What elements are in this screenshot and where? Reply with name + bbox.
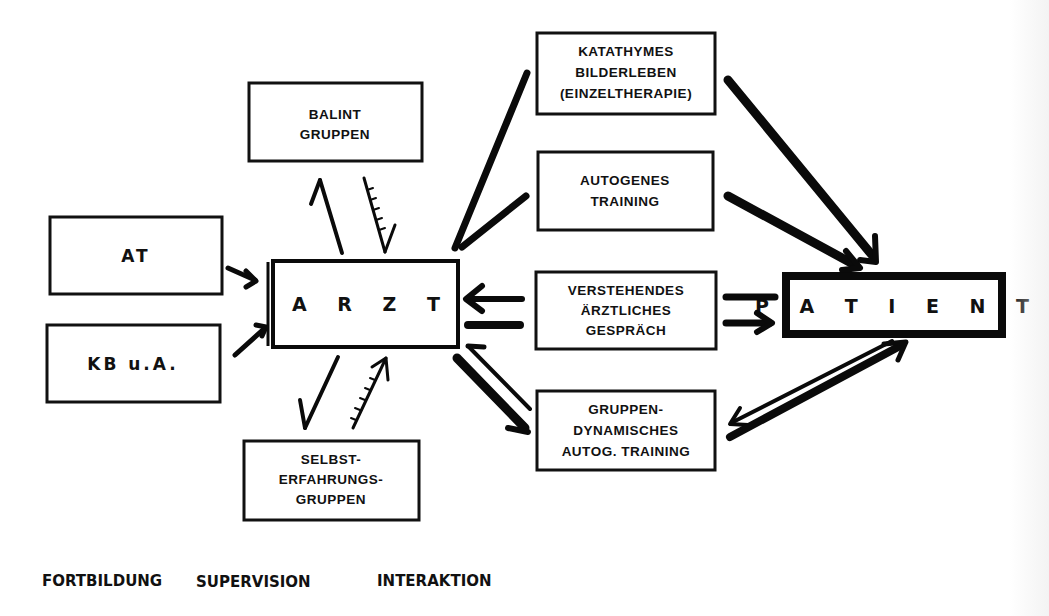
- arrow-verstehendes-to-patient: [726, 313, 772, 332]
- node-verstehendes-line-2: ÄRZTLICHES: [581, 303, 672, 318]
- node-verstehendes-line-1: VERSTEHENDES: [568, 283, 684, 298]
- node-katathymes-line-2: BILDERLEBEN: [575, 65, 677, 80]
- column-label-interaktion: INTERAKTION: [377, 572, 492, 590]
- node-gruppen-line-1: GRUPPEN-: [588, 402, 663, 417]
- node-katathymes-line-1: KATATHYMES: [578, 44, 674, 59]
- arrow-arzt-to-balint: [311, 180, 342, 253]
- arrow-verstehendes-to-arzt: [466, 286, 522, 311]
- arrow-autogenes-to-patient: [728, 196, 860, 270]
- node-katathymes-line-3: (EINZELTHERAPIE): [560, 86, 692, 101]
- arrow-kb-to-arzt: [235, 325, 266, 355]
- scan-edge-shading: [1009, 0, 1049, 616]
- node-gruppen-line-2: DYNAMISCHES: [573, 423, 678, 438]
- node-selbst-line-1: SELBST-: [301, 452, 362, 467]
- arrow-balint-to-arzt: [364, 178, 395, 252]
- node-gruppen: GRUPPEN- DYNAMISCHES AUTOG. TRAINING: [537, 391, 715, 470]
- node-arzt: A R Z T: [268, 261, 458, 347]
- node-autogenes-line-1: AUTOGENES: [580, 173, 670, 188]
- arrow-patient-to-gruppen: [730, 341, 892, 425]
- node-verstehendes: VERSTEHENDES ÄRZTLICHES GESPRÄCH: [536, 272, 716, 349]
- node-patient: P A T I E N T: [755, 276, 1041, 334]
- node-balint-line-2: GRUPPEN: [300, 127, 370, 142]
- node-katathymes: KATATHYMES BILDERLEBEN (EINZELTHERAPIE): [537, 33, 715, 114]
- node-gruppen-line-3: AUTOG. TRAINING: [562, 444, 691, 459]
- node-at-label: AT: [121, 246, 150, 266]
- arzt-patient-diagram: AT KB u.A. A R Z T BALINT GRUPPEN SELBST…: [0, 0, 1049, 616]
- node-autogenes: AUTOGENES TRAINING: [538, 152, 713, 230]
- arrow-selbst-to-arzt: [351, 358, 388, 428]
- node-selbst: SELBST- ERFAHRUNGS- GRUPPEN: [244, 441, 419, 520]
- arrow-arzt-to-selbst: [300, 357, 338, 428]
- column-label-supervision: SUPERVISION: [196, 573, 311, 591]
- node-kb: KB u.A.: [47, 325, 220, 402]
- node-kb-label: KB u.A.: [87, 354, 179, 374]
- arrow-at-to-arzt: [228, 268, 256, 287]
- node-selbst-line-3: GRUPPEN: [296, 492, 366, 507]
- node-patient-label: P A T I E N T: [755, 295, 1041, 317]
- arrow-gruppen-to-patient: [730, 342, 906, 437]
- column-label-fortbildung: FORTBILDUNG: [42, 572, 162, 590]
- node-at: AT: [50, 217, 222, 294]
- node-autogenes-line-2: TRAINING: [590, 194, 659, 209]
- node-balint: BALINT GRUPPEN: [249, 83, 422, 161]
- node-verstehendes-line-3: GESPRÄCH: [586, 323, 667, 338]
- node-arzt-label: A R Z T: [292, 293, 452, 315]
- node-selbst-line-2: ERFAHRUNGS-: [279, 472, 384, 487]
- node-balint-line-1: BALINT: [309, 107, 362, 122]
